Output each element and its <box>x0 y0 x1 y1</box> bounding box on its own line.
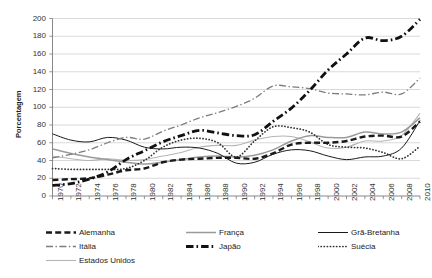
legend-swatch-icon <box>186 228 216 237</box>
legend-item[interactable]: Grã-Bretanha <box>318 227 399 238</box>
legend-swatch-icon <box>46 228 76 237</box>
legend-item-label: Grã-Bretanha <box>351 228 399 237</box>
legend-item[interactable]: França <box>186 227 244 238</box>
legend-swatch-icon <box>318 242 348 251</box>
legend-swatch-icon <box>46 242 76 251</box>
legend-item[interactable]: Japão <box>186 241 241 252</box>
legend-swatch-icon <box>186 242 216 251</box>
chart-legend: AlemanhaFrançaGrã-BretanhaItáliaJapãoSué… <box>46 227 424 275</box>
legend-item-label: Itália <box>79 242 96 251</box>
legend-item[interactable]: Suécia <box>318 241 375 252</box>
legend-swatch-icon <box>318 228 348 237</box>
legend-item-label: Japão <box>219 242 241 251</box>
legend-item-label: Estados Unidos <box>79 256 135 265</box>
legend-item-label: Alemanha <box>79 228 115 237</box>
legend-item[interactable]: Alemanha <box>46 227 115 238</box>
legend-item[interactable]: Itália <box>46 241 96 252</box>
legend-swatch-icon <box>46 256 76 265</box>
series-line <box>53 121 421 180</box>
legend-item-label: Suécia <box>351 242 375 251</box>
legend-item-label: França <box>219 228 244 237</box>
legend-item[interactable]: Estados Unidos <box>46 255 135 266</box>
